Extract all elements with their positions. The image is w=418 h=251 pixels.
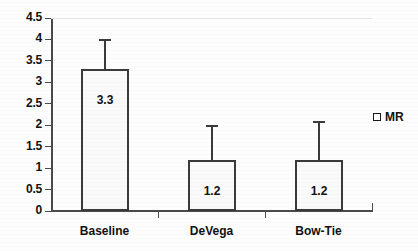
x-axis-tick — [265, 212, 266, 218]
y-axis-tick — [45, 189, 51, 190]
error-bar-cap — [99, 39, 111, 41]
error-bar-stem — [211, 125, 213, 159]
y-axis-tick-label: 3 — [0, 74, 42, 88]
x-axis-tick — [51, 203, 52, 211]
y-axis-tick-label: 0.5 — [0, 182, 42, 196]
y-axis-tick — [45, 82, 51, 83]
y-axis-tick — [45, 168, 51, 169]
y-axis-tick-label: 4 — [0, 31, 42, 45]
y-axis-tick-label: 4.5 — [0, 10, 42, 24]
error-bar-stem — [104, 39, 106, 69]
y-axis-tick — [45, 18, 51, 19]
plot-top-border — [51, 18, 372, 19]
category-label: Bow-Tie — [265, 224, 372, 238]
bar-value-label: 1.2 — [295, 184, 343, 198]
category-label: DeVega — [158, 224, 265, 238]
bar-chart-figure: 4.543.532.521.510.50 3.31.21.2 BaselineD… — [0, 0, 418, 251]
y-axis-tick — [45, 103, 51, 104]
legend-label: MR — [385, 110, 404, 124]
y-axis-tick-label: 0 — [0, 203, 42, 217]
bar-value-label: 1.2 — [188, 184, 236, 198]
y-axis-tick — [45, 39, 51, 40]
bar-value-label: 3.3 — [81, 93, 129, 107]
legend: MR — [373, 110, 404, 124]
y-axis-tick-label: 1 — [0, 160, 42, 174]
error-bar-cap — [313, 121, 325, 123]
y-axis-tick-label: 3.5 — [0, 53, 42, 67]
category-label: Baseline — [51, 224, 158, 238]
y-axis-tick — [45, 125, 51, 126]
x-axis-tick — [372, 203, 373, 211]
y-axis-tick-label: 2.5 — [0, 96, 42, 110]
y-axis-tick-label: 1.5 — [0, 139, 42, 153]
error-bar-cap — [206, 125, 218, 127]
x-axis-tick — [158, 212, 159, 218]
y-axis-tick-label: 2 — [0, 117, 42, 131]
legend-swatch-icon — [373, 113, 381, 121]
bar — [81, 69, 129, 211]
y-axis-tick — [45, 146, 51, 147]
error-bar-stem — [318, 121, 320, 160]
y-axis-tick — [45, 60, 51, 61]
